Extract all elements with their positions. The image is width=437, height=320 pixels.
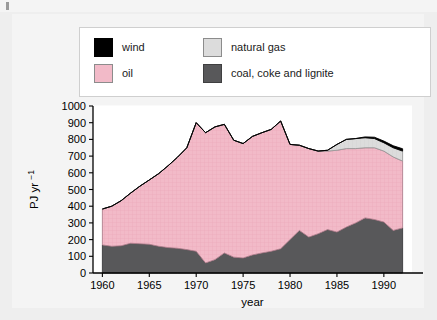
x-axis-title: year — [241, 296, 264, 308]
y-axis-tick-label: 500 — [68, 184, 86, 196]
page-crop-mark-icon — [6, 2, 9, 10]
chart-panel: wind natural gas oil coal, coke and lign… — [12, 14, 424, 308]
x-axis-tick-label: 1975 — [231, 279, 255, 291]
y-axis-title-main: PJ yr — [28, 180, 40, 209]
y-axis-tick-label: 900 — [68, 117, 86, 129]
y-axis-tick-label: 100 — [68, 250, 86, 262]
y-axis-tick-label: 400 — [68, 200, 86, 212]
x-axis-tick-label: 1970 — [184, 279, 208, 291]
x-axis-tick-label: 1985 — [325, 279, 349, 291]
x-axis-tick-label: 1965 — [137, 279, 161, 291]
y-axis-tick-label: 1000 — [62, 100, 86, 112]
y-axis-title-exponent: −1 — [26, 170, 36, 180]
page-top-edge — [0, 0, 437, 12]
x-axis-tick-label: 1980 — [278, 279, 302, 291]
stacked-area-chart: 0100200300400500600700800900100019601965… — [12, 14, 424, 308]
y-axis-tick-label: 700 — [68, 150, 86, 162]
x-axis-tick-label: 1960 — [90, 279, 114, 291]
y-axis-tick-label: 600 — [68, 167, 86, 179]
y-axis-title-text: PJ yr −1 — [26, 170, 40, 209]
y-axis-tick-label: 800 — [68, 133, 86, 145]
y-axis-tick-label: 200 — [68, 234, 86, 246]
y-axis-tick-label: 300 — [68, 217, 86, 229]
y-axis-tick-label: 0 — [80, 267, 86, 279]
x-axis-tick-label: 1990 — [372, 279, 396, 291]
figure-container: wind natural gas oil coal, coke and lign… — [0, 0, 437, 320]
y-axis-title: PJ yr −1 — [26, 170, 40, 209]
